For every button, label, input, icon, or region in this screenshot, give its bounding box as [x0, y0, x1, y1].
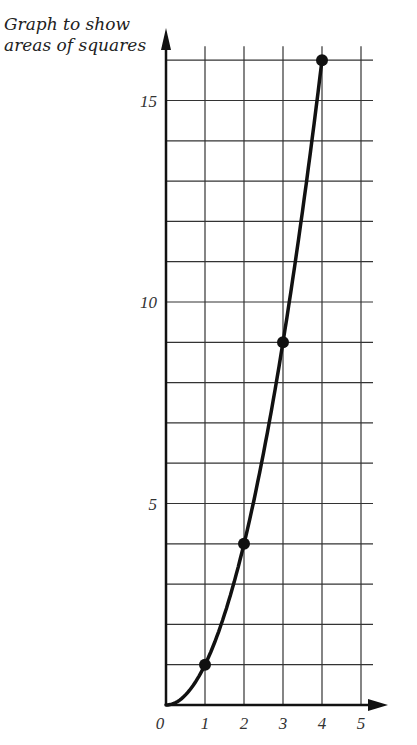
x-axis-arrow-icon: [368, 699, 388, 711]
x-tick-label: 1: [201, 714, 210, 733]
x-tick-label: 2: [240, 714, 249, 733]
data-point: [277, 336, 289, 348]
chart: 012345 51015: [0, 0, 417, 745]
y-axis-arrow-icon: [161, 28, 171, 50]
x-tick-label: 3: [278, 714, 288, 733]
y-tick-label: 15: [140, 92, 157, 111]
axes: [161, 28, 388, 711]
grid: [166, 46, 373, 705]
x-tick-labels: 012345: [156, 714, 366, 733]
data-points: [199, 54, 328, 671]
x-tick-label: 0: [156, 714, 165, 733]
data-point: [199, 659, 211, 671]
y-tick-labels: 51015: [140, 92, 158, 514]
data-point: [316, 54, 328, 66]
y-tick-label: 5: [149, 495, 158, 514]
x-tick-label: 4: [318, 714, 327, 733]
x-tick-label: 5: [357, 714, 366, 733]
data-point: [238, 538, 250, 550]
y-tick-label: 10: [140, 293, 158, 312]
